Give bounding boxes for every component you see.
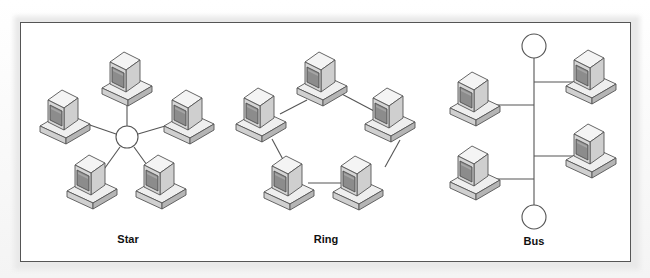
ring-link	[338, 92, 374, 111]
star-label: Star	[117, 233, 138, 245]
bus-terminator-top	[522, 34, 546, 58]
computer-icon	[566, 50, 616, 104]
bus-topology	[450, 34, 616, 229]
computer-icon	[297, 52, 347, 106]
computer-icon	[264, 156, 314, 210]
computer-icon	[164, 90, 214, 144]
star-topology	[40, 52, 214, 209]
computer-icon	[365, 88, 415, 142]
computer-icon	[67, 155, 117, 209]
computer-icon	[450, 146, 500, 200]
ring-topology	[236, 52, 415, 210]
computer-icon	[40, 90, 90, 144]
bus-terminator-bottom	[522, 205, 546, 229]
ring-link	[385, 140, 400, 167]
computer-icon	[236, 88, 286, 142]
computer-icon	[136, 155, 186, 209]
computer-icon	[566, 124, 616, 178]
bus-label: Bus	[524, 235, 545, 247]
star-hub-node	[116, 126, 138, 148]
computer-icon	[102, 52, 152, 106]
ring-link	[280, 100, 307, 114]
computer-icon	[450, 72, 500, 126]
ring-label: Ring	[314, 233, 338, 245]
